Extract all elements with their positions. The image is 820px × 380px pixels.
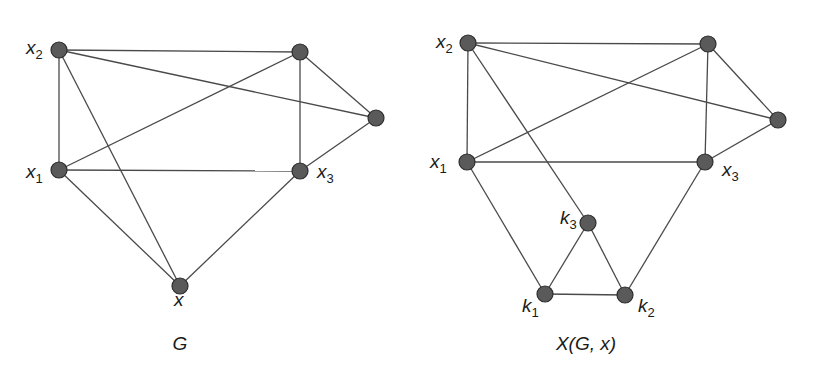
edge-x3-k2 (625, 162, 705, 295)
edge-x2-b (468, 43, 778, 120)
node-a (292, 44, 308, 60)
edge-k3-k2 (588, 223, 625, 295)
node-a (700, 36, 716, 52)
graph-caption-G: G (173, 333, 188, 354)
node-label-k1: k1 (522, 295, 539, 320)
node-b (770, 112, 786, 128)
node-k1 (537, 286, 553, 302)
edge-x2-b (59, 50, 376, 118)
node-label-x3: x3 (721, 159, 739, 184)
edge-x1-k1 (467, 162, 545, 294)
node-b (368, 110, 384, 126)
graph-G: x2x1x3xG (25, 37, 384, 354)
graph-caption-XGx: X(G, x) (555, 333, 616, 354)
node-label-x1: x1 (25, 161, 43, 186)
node-x2 (51, 42, 67, 58)
node-label-k2: k2 (638, 295, 655, 320)
node-label-x2: x2 (25, 37, 43, 62)
node-k2 (617, 287, 633, 303)
edge-k3-k1 (545, 223, 588, 294)
edge-a-x1 (467, 44, 708, 162)
edge-x2-k3 (468, 43, 588, 223)
node-x1 (51, 162, 67, 178)
edge-x1-x (59, 170, 180, 286)
node-x1 (459, 154, 475, 170)
edge-x2-a (59, 50, 300, 52)
node-label-x3: x3 (316, 161, 334, 186)
node-label-x2: x2 (435, 31, 453, 56)
node-label-x1: x1 (429, 151, 447, 176)
edge-k1-k2 (545, 294, 625, 295)
edge-b-x3 (705, 120, 778, 162)
edge-a-x1 (59, 52, 300, 170)
edge-x3-x (180, 171, 300, 286)
node-label-x: x (173, 289, 185, 310)
node-x3 (697, 154, 713, 170)
edge-x1-x3 (59, 170, 300, 171)
edge-a-b (708, 44, 778, 120)
edge-x2-a (468, 43, 708, 44)
edge-x2-x1 (467, 43, 468, 162)
edge-a-b (300, 52, 376, 118)
node-k3 (580, 215, 596, 231)
graph-XGx: x2x1x3k3k1k2X(G, x) (429, 31, 786, 354)
edge-b-x3 (300, 118, 376, 171)
edge-x2-x (59, 50, 180, 286)
node-x2 (460, 35, 476, 51)
graph-diagram-canvas: x2x1x3xGx2x1x3k3k1k2X(G, x) (0, 0, 820, 380)
node-x3 (292, 163, 308, 179)
node-label-k3: k3 (560, 207, 577, 232)
